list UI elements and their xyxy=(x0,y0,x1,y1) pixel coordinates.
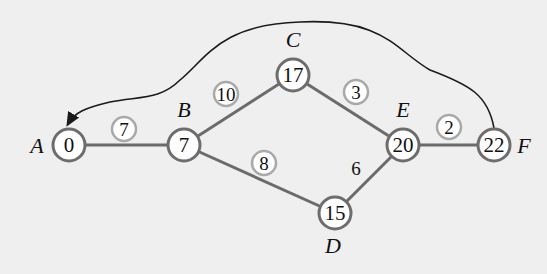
edges-group xyxy=(69,75,494,213)
edge-weight-b-d: 8 xyxy=(252,151,276,175)
node-value: 20 xyxy=(393,133,414,157)
edge-weight-a-b: 7 xyxy=(112,117,136,141)
node-value: 7 xyxy=(179,133,190,157)
node-b: 7B xyxy=(168,97,200,161)
edge-weight-e-f: 2 xyxy=(437,115,461,139)
weight-value: 2 xyxy=(444,117,454,138)
weight-value: 10 xyxy=(217,84,236,105)
edge-b-c xyxy=(184,75,293,145)
node-label: C xyxy=(286,27,301,52)
node-label: A xyxy=(28,133,44,158)
node-value: 15 xyxy=(325,201,346,225)
node-value: 22 xyxy=(484,133,505,157)
node-label: D xyxy=(324,233,341,258)
node-a: 0A xyxy=(28,129,85,161)
node-c: 17C xyxy=(277,27,309,91)
diagram-canvas: 7103862 0A7B17C15D20E22F xyxy=(0,0,547,274)
edge-weight-d-e: 6 xyxy=(351,158,361,179)
node-label: F xyxy=(516,133,531,158)
edge-weight-b-c: 10 xyxy=(214,82,238,106)
node-value: 0 xyxy=(64,133,75,157)
node-value: 17 xyxy=(283,63,304,87)
node-label: B xyxy=(177,97,190,122)
weight-value: 3 xyxy=(351,82,361,103)
weight-value: 8 xyxy=(259,153,269,174)
network-diagram: 7103862 0A7B17C15D20E22F xyxy=(0,0,547,274)
node-d: 15D xyxy=(319,197,351,258)
weight-value: 6 xyxy=(351,158,361,179)
weight-value: 7 xyxy=(119,119,129,140)
edge-weight-c-e: 3 xyxy=(344,80,368,104)
node-e: 20E xyxy=(387,97,419,161)
node-f: 22F xyxy=(478,129,531,161)
nodes-group: 0A7B17C15D20E22F xyxy=(28,27,531,258)
node-label: E xyxy=(395,97,410,122)
